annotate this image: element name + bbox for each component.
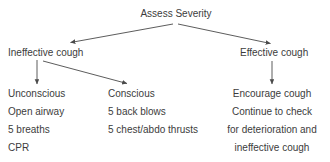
node-ineffective-cough: Ineffective cough <box>8 44 83 62</box>
unconscious-step-4: CPR <box>8 139 65 157</box>
node-effective-cough-label: Effective cough <box>240 44 308 62</box>
conscious-step-3: 5 chest/abdo thrusts <box>108 121 198 139</box>
conscious-step-2: 5 back blows <box>108 103 198 121</box>
node-unconscious-steps: Unconscious Open airway 5 breaths CPR <box>8 85 65 157</box>
node-assess-severity-label: Assess Severity <box>135 5 217 23</box>
arrow-root-to-effective <box>178 24 271 44</box>
node-encourage-steps: Encourage cough Continue to check for de… <box>205 85 330 157</box>
encourage-step-4: ineffective cough <box>205 139 330 157</box>
arrow-root-to-ineffective <box>71 24 174 43</box>
node-ineffective-cough-label: Ineffective cough <box>8 44 83 62</box>
node-conscious-steps: Conscious 5 back blows 5 chest/abdo thru… <box>108 85 198 139</box>
arrow-ineffective-to-conscious <box>43 61 127 84</box>
encourage-step-3: for deterioration and <box>205 121 330 139</box>
unconscious-step-1: Unconscious <box>8 85 65 103</box>
encourage-step-2: Continue to check <box>205 103 330 121</box>
unconscious-step-2: Open airway <box>8 103 65 121</box>
flowchart-canvas: Assess Severity Ineffective cough Effect… <box>0 0 330 162</box>
node-effective-cough: Effective cough <box>240 44 308 62</box>
flowchart-page: { "diagram": { "title": "Assess Severity… <box>0 0 330 162</box>
conscious-step-1: Conscious <box>108 85 198 103</box>
unconscious-step-3: 5 breaths <box>8 121 65 139</box>
node-assess-severity: Assess Severity <box>135 5 217 23</box>
encourage-step-1: Encourage cough <box>205 85 330 103</box>
